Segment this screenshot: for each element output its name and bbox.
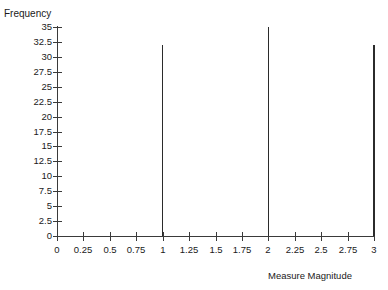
y-axis-tick-label: 15 — [10, 141, 52, 151]
x-axis-tick — [189, 232, 190, 241]
x-axis-tick-label: 3 — [354, 244, 388, 255]
x-axis-tick — [321, 232, 322, 241]
y-axis-tick-label: 17.5 — [10, 127, 52, 137]
y-axis-tick — [53, 176, 62, 177]
y-axis-title: Frequency — [4, 8, 51, 20]
x-axis-title: Measure Magnitude — [268, 270, 352, 281]
x-axis-tick — [136, 232, 137, 241]
y-axis-tick — [53, 146, 62, 147]
y-axis-tick-label: 10 — [10, 171, 52, 181]
bar — [162, 45, 163, 236]
y-axis-tick — [53, 206, 62, 207]
x-axis-tick — [57, 232, 58, 241]
y-axis-tick — [53, 117, 62, 118]
y-axis-tick-label: 32.5 — [10, 37, 52, 47]
bar — [268, 27, 269, 236]
y-axis-tick — [53, 161, 62, 162]
x-axis-tick — [295, 232, 296, 241]
y-axis-tick — [53, 132, 62, 133]
y-axis-tick-label: 7.5 — [10, 186, 52, 196]
x-axis-tick — [83, 232, 84, 241]
x-axis-tick — [242, 232, 243, 241]
y-axis-tick-label: 35 — [10, 22, 52, 32]
x-axis-tick — [348, 232, 349, 241]
y-axis-tick-label: 0 — [10, 231, 52, 241]
y-axis-tick — [53, 191, 62, 192]
y-axis-tick-label: 20 — [10, 112, 52, 122]
bar — [373, 45, 374, 236]
x-axis-tick — [216, 232, 217, 241]
y-axis-tick-label: 12.5 — [10, 156, 52, 166]
y-axis-tick — [53, 87, 62, 88]
y-axis-tick-label: 2.5 — [10, 216, 52, 226]
y-axis-tick-label: 27.5 — [10, 67, 52, 77]
y-axis-tick — [53, 72, 62, 73]
y-axis-tick — [53, 42, 62, 43]
y-axis-tick-label: 30 — [10, 52, 52, 62]
x-axis-tick — [110, 232, 111, 241]
y-axis-tick — [53, 221, 62, 222]
y-axis-tick-label: 5 — [10, 201, 52, 211]
y-axis-tick — [53, 27, 62, 28]
frequency-chart: Frequency 02.557.51012.51517.52022.52527… — [0, 0, 388, 290]
y-axis-tick — [53, 102, 62, 103]
y-axis-tick-label: 22.5 — [10, 97, 52, 107]
y-axis-tick-label: 25 — [10, 82, 52, 92]
y-axis-tick — [53, 57, 62, 58]
